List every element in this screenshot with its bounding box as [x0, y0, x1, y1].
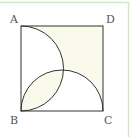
geometry-diagram: A D B C: [0, 0, 138, 137]
vertex-label-a: A: [9, 13, 19, 26]
vertex-label-c: C: [104, 114, 112, 127]
vertex-label-b: B: [10, 114, 18, 127]
diagram-frame: A D B C: [0, 0, 138, 137]
vertex-label-d: D: [106, 13, 115, 26]
